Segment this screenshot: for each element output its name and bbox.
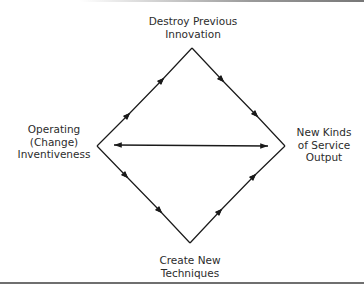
edge-left-bottom bbox=[97, 146, 190, 243]
node-left-label: Operating (Change) Inventiveness bbox=[4, 123, 104, 161]
node-bottom-label: Create New Techniques bbox=[140, 254, 240, 279]
bidirectional-arrow bbox=[114, 145, 268, 146]
node-right-label: New Kinds of Service Output bbox=[288, 126, 360, 164]
bottom-rule bbox=[0, 282, 364, 284]
edge-top-right bbox=[192, 48, 285, 146]
edge-bottom-right bbox=[190, 146, 285, 243]
node-top-label: Destroy Previous Innovation bbox=[143, 15, 243, 40]
edge-left-top bbox=[97, 48, 192, 146]
